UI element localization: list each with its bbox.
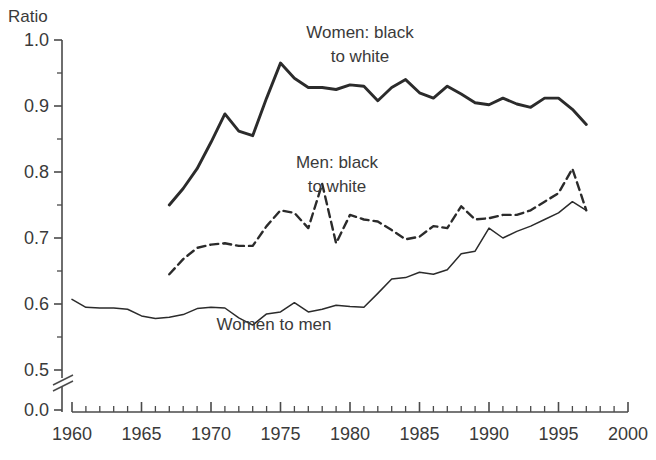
chart-container: 1.00.90.80.70.60.50.0 196019651970197519… [0, 0, 656, 460]
series-label-women-black-white: Women: black [306, 23, 414, 42]
x-axis-tick-label: 1995 [538, 424, 578, 444]
series-label-women-to-men: Women to men [217, 315, 332, 334]
series-label-men-black-white: Men: black [296, 153, 379, 172]
x-axis-tick-label: 1975 [260, 424, 300, 444]
series-label-men-black-white-line2: to white [308, 177, 367, 196]
y-axis-tick-label: 0.7 [24, 228, 49, 248]
series-label-women-black-white-line2: to white [331, 47, 390, 66]
y-axis-tick-label: 0.5 [24, 360, 49, 380]
y-axis-title: Ratio [8, 7, 48, 26]
y-axis-tick-label: 0.6 [24, 294, 49, 314]
ratio-line-chart: 1.00.90.80.70.60.50.0 196019651970197519… [0, 0, 656, 460]
chart-background [0, 0, 656, 460]
x-axis-tick-label: 1960 [52, 424, 92, 444]
y-axis-tick-label: 0.9 [24, 96, 49, 116]
y-axis-tick-label: 0.8 [24, 162, 49, 182]
x-axis-tick-label: 1965 [121, 424, 161, 444]
x-axis-tick-label: 2000 [608, 424, 648, 444]
y-axis-tick-label: 1.0 [24, 30, 49, 50]
x-axis-tick-label: 1980 [330, 424, 370, 444]
x-axis-tick-label: 1970 [191, 424, 231, 444]
x-axis-tick-label: 1990 [469, 424, 509, 444]
x-axis-tick-label: 1985 [399, 424, 439, 444]
y-axis-tick-label: 0.0 [24, 400, 49, 420]
